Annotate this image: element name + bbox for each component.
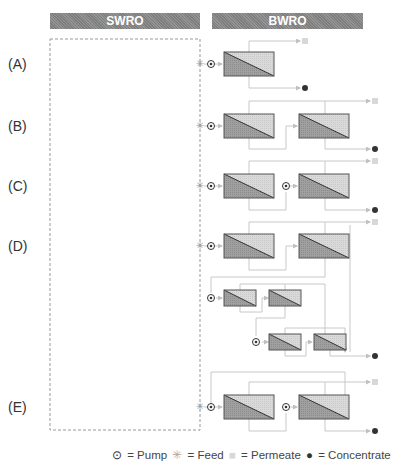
legend-permeate-label: = Permeate — [241, 449, 301, 461]
feed-icon — [196, 180, 204, 191]
pump-icon — [208, 243, 215, 250]
ro-module-e2 — [299, 395, 349, 419]
pump-icon — [283, 183, 290, 190]
feed-icon — [196, 120, 204, 131]
concentrate-icon — [302, 85, 308, 91]
ro-module-d5 — [269, 334, 301, 350]
ro-module-d3 — [224, 290, 256, 306]
permeate-icon — [372, 158, 378, 164]
pump-icon — [208, 295, 215, 302]
legend: ⊙ = Pump ✳ = Feed ■ = Permeate ● = Conce… — [112, 448, 393, 462]
ro-module-a1 — [224, 52, 274, 76]
concentrate-icon — [372, 428, 378, 434]
ro-module-d1 — [224, 234, 274, 258]
ro-module-b1 — [224, 114, 274, 138]
ro-module-c1 — [224, 174, 274, 198]
feed-icon: ✳ — [172, 449, 182, 461]
permeate-icon — [302, 38, 308, 44]
pump-icon — [253, 339, 260, 346]
legend-feed-label: = Feed — [188, 449, 224, 461]
pump-icon — [208, 61, 215, 68]
legend-pump-label: = Pump — [127, 449, 167, 461]
permeate-icon — [372, 219, 378, 225]
ro-module-c2 — [299, 174, 349, 198]
ro-module-b2 — [299, 114, 349, 138]
feed-icon — [196, 240, 204, 251]
pump-icon: ⊙ — [112, 449, 122, 461]
ro-module-d2 — [299, 234, 349, 258]
ro-module-d6 — [314, 334, 346, 350]
permeate-icon — [372, 379, 378, 385]
concentrate-icon: ● — [306, 449, 313, 461]
concentrate-icon — [372, 146, 378, 152]
concentrate-icon — [372, 207, 378, 213]
pump-icon — [208, 183, 215, 190]
ro-module-e1 — [224, 395, 274, 419]
feed-icon — [196, 401, 204, 412]
ro-module-d4 — [269, 290, 301, 306]
pump-icon — [208, 404, 215, 411]
legend-concentrate-label: = Concentrate — [318, 449, 391, 461]
concentrate-icon — [372, 353, 378, 359]
permeate-icon — [372, 98, 378, 104]
swro-box — [50, 39, 200, 430]
pump-icon — [208, 123, 215, 130]
pump-icon — [283, 404, 290, 411]
feed-icon — [196, 58, 204, 69]
permeate-icon: ■ — [229, 449, 236, 461]
